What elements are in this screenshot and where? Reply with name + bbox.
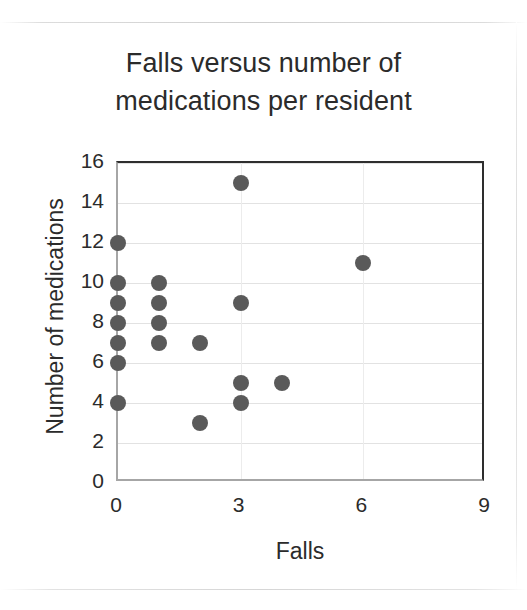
data-point: [110, 355, 126, 371]
data-point: [233, 295, 249, 311]
data-point: [110, 315, 126, 331]
x-axis-tick-label: 0: [86, 494, 146, 515]
data-point: [110, 395, 126, 411]
plot-area: [116, 161, 484, 481]
x-axis-tick-label: 3: [209, 494, 269, 515]
y-axis-title: Number of medications: [44, 157, 67, 477]
data-point: [110, 295, 126, 311]
x-axis-tick-label: 6: [331, 494, 391, 515]
scan-edge-top: [0, 22, 527, 23]
data-point: [110, 235, 126, 251]
data-point: [355, 255, 371, 271]
chart-title-line-1: Falls versus number of: [0, 44, 527, 82]
data-point: [233, 395, 249, 411]
data-point: [192, 415, 208, 431]
scan-edge-bottom: [0, 589, 527, 590]
data-point: [233, 175, 249, 191]
data-point: [233, 375, 249, 391]
data-point: [274, 375, 290, 391]
data-point: [110, 335, 126, 351]
data-point: [151, 335, 167, 351]
x-axis-title: Falls: [116, 540, 484, 563]
data-point: [110, 275, 126, 291]
scatter-points-layer: [118, 163, 482, 479]
chart-title: Falls versus number of medications per r…: [0, 44, 527, 120]
data-point: [151, 275, 167, 291]
data-point: [192, 335, 208, 351]
data-point: [151, 315, 167, 331]
x-axis-tick-label: 9: [454, 494, 514, 515]
chart-title-line-2: medications per resident: [0, 82, 527, 120]
data-point: [151, 295, 167, 311]
x-axis-tick-labels: 0369: [116, 494, 484, 520]
